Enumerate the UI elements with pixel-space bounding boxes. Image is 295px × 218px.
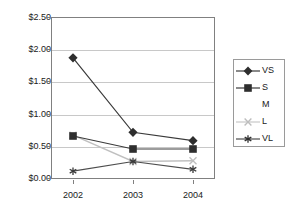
y-axis-tick-mark xyxy=(46,146,50,147)
x-axis-tick-label: 2004 xyxy=(183,191,203,200)
legend-label: VS xyxy=(262,66,274,75)
y-axis: $2.50 $2.00 $1.50 $1.00 $0.50 $0.00 xyxy=(0,17,51,179)
legend-marker-x-icon xyxy=(234,114,262,130)
x-axis-tick-label: 2002 xyxy=(63,191,83,200)
legend-label: L xyxy=(262,117,267,126)
series-layer xyxy=(51,17,215,179)
legend-label: M xyxy=(262,100,270,109)
y-axis-tick-mark xyxy=(46,49,50,50)
line-chart: $2.50 $2.00 $1.50 $1.00 $0.50 $0.00 xyxy=(0,0,295,218)
chart-legend: VS S M xyxy=(233,59,285,147)
y-axis-tick-label: $2.50 xyxy=(5,13,51,22)
x-axis-tick-mark xyxy=(73,180,74,184)
y-axis-tick-mark xyxy=(46,178,50,179)
x-axis-tick-label: 2003 xyxy=(123,191,143,200)
legend-item-vs[interactable]: VS xyxy=(234,62,284,79)
legend-marker-square-icon xyxy=(234,80,262,96)
y-axis-tick-mark xyxy=(46,114,50,115)
legend-label: VL xyxy=(262,134,273,143)
legend-item-vl[interactable]: VL xyxy=(234,130,284,147)
y-axis-tick-label: $0.50 xyxy=(5,142,51,151)
y-axis-tick-mark xyxy=(46,81,50,82)
y-axis-tick-label: $1.50 xyxy=(5,77,51,86)
legend-marker-none-icon xyxy=(234,97,262,113)
y-axis-tick-label: $2.00 xyxy=(5,45,51,54)
y-axis-tick-label: $0.00 xyxy=(5,174,51,183)
x-axis-tick-mark xyxy=(133,180,134,184)
legend-marker-asterisk-icon xyxy=(234,131,262,147)
legend-item-s[interactable]: S xyxy=(234,79,284,96)
x-axis: 2002 2003 2004 xyxy=(51,180,215,204)
x-axis-tick-mark xyxy=(193,180,194,184)
legend-label: S xyxy=(262,83,268,92)
y-axis-tick-label: $1.00 xyxy=(5,110,51,119)
legend-marker-diamond-icon xyxy=(234,63,262,79)
legend-item-l[interactable]: L xyxy=(234,113,284,130)
y-axis-tick-mark xyxy=(46,17,50,18)
legend-item-m[interactable]: M xyxy=(234,96,284,113)
series-VS xyxy=(68,53,197,145)
